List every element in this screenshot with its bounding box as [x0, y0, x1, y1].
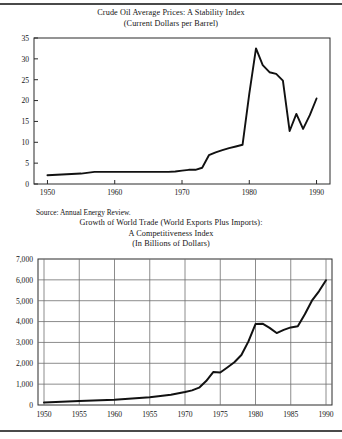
figure1-ytick-label: 10: [21, 138, 29, 147]
figure2-ytick-label: 4,000: [16, 317, 33, 326]
figure-crude-oil-prices: Crude Oil Average Prices: A Stability In…: [0, 8, 342, 210]
figure2-ytick-label: 5,000: [16, 296, 33, 305]
figure2-title-line1: Growth of World Trade (World Exports Plu…: [0, 218, 342, 229]
figure1-ytick-label: 20: [21, 96, 29, 105]
figure1-ytick-label: 25: [21, 76, 29, 85]
figure1-source: Source: Annual Energy Review.: [36, 208, 131, 217]
figure2-ytick-label: 7,000: [16, 254, 33, 263]
figure1-xtick-label: 1960: [107, 188, 122, 197]
figure2-ytick-label: 1,000: [16, 379, 33, 388]
figure1-plot: 0510152025303519501960197019801990: [0, 32, 342, 210]
figure2-svg: 01,0002,0003,0004,0005,0006,0007,0001950…: [0, 253, 342, 433]
figure2-xtick-label: 1985: [283, 410, 298, 419]
figure1-title-line2: (Current Dollars per Barrel): [0, 19, 342, 30]
figure2-ytick-label: 2,000: [16, 359, 33, 368]
figure2-xtick-label: 1955: [142, 410, 157, 419]
figure1-title-line1: Crude Oil Average Prices: A Stability In…: [0, 8, 342, 19]
figure2-plot: 01,0002,0003,0004,0005,0006,0007,0001950…: [0, 253, 342, 433]
figure2-xtick-label: 1970: [177, 410, 192, 419]
figure1-ytick-label: 35: [21, 34, 29, 43]
figure2-title-line2: A Competitiveness Index: [0, 229, 342, 240]
figure1-xtick-label: 1980: [242, 188, 257, 197]
figure1-xtick-label: 1950: [40, 188, 55, 197]
page-rule-top: [0, 3, 342, 5]
figure1-ytick-label: 5: [25, 159, 29, 168]
figure2-xtick-label: 1990: [318, 410, 333, 419]
figure2-xtick-label: 1960: [107, 410, 122, 419]
figure2-ytick-label: 6,000: [16, 275, 33, 284]
figure1-xtick-label: 1990: [309, 188, 324, 197]
figure2-ytick-label: 0: [29, 400, 33, 409]
figure1-xtick-label: 1970: [174, 188, 189, 197]
figure2-xtick-label: 1975: [213, 410, 228, 419]
figure2-ytick-label: 3,000: [16, 338, 33, 347]
figure2-xtick-label: 1955: [72, 410, 87, 419]
figure1-title: Crude Oil Average Prices: A Stability In…: [0, 8, 342, 29]
figure1-ytick-label: 30: [21, 55, 29, 64]
figure2-title: Growth of World Trade (World Exports Plu…: [0, 218, 342, 250]
figure-world-trade: Growth of World Trade (World Exports Plu…: [0, 218, 342, 433]
figure2-xtick-label: 1950: [36, 410, 51, 419]
document-page: Crude Oil Average Prices: A Stability In…: [0, 0, 342, 439]
figure1-ytick-label: 0: [25, 180, 29, 189]
figure2-title-line3: (In Billions of Dollars): [0, 239, 342, 250]
figure1-ytick-label: 15: [21, 117, 29, 126]
figure2-xtick-label: 1980: [248, 410, 263, 419]
figure1-svg: 0510152025303519501960197019801990: [0, 32, 342, 210]
figure1-frame: [34, 38, 330, 184]
